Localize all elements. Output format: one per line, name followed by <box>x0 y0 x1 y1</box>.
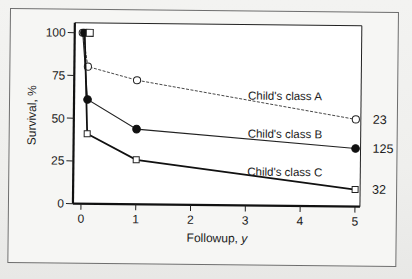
series-b-marker <box>352 145 360 153</box>
x-tick-1: 1 <box>132 212 139 226</box>
survival-chart: 100 75 50 25 0 0 1 2 3 4 5 <box>8 9 401 269</box>
series-b-marker <box>133 125 141 133</box>
series-a-marker <box>352 116 359 123</box>
y-tick-0: 0 <box>57 197 64 211</box>
series-b-marker <box>84 96 92 104</box>
x-axis-title: Followup, y <box>187 231 249 246</box>
scanned-page: 100 75 50 25 0 0 1 2 3 4 5 <box>0 0 412 279</box>
y-tick-50: 50 <box>51 111 65 125</box>
series-a-marker <box>133 77 140 84</box>
y-axis-title: Survival, % <box>25 85 40 145</box>
y-tick-25: 25 <box>51 153 65 167</box>
plot-area <box>73 23 362 207</box>
x-tick-2: 2 <box>187 213 194 227</box>
x-tick-5: 5 <box>351 215 358 229</box>
x-tick-4: 4 <box>297 214 304 228</box>
y-tick-75: 75 <box>52 68 66 82</box>
y-tick-100: 100 <box>46 25 66 39</box>
x-tick-0: 0 <box>77 212 84 226</box>
count-class-b: 125 <box>372 142 393 156</box>
count-class-c: 32 <box>372 183 386 197</box>
x-tick-3: 3 <box>242 213 249 227</box>
label-class-a: Child's class A <box>248 89 322 102</box>
series-c-marker <box>133 157 139 163</box>
x-tick-labels: 0 1 2 3 4 5 <box>77 212 358 229</box>
label-class-c: Child's class C <box>247 165 322 178</box>
label-class-b: Child's class B <box>248 127 323 140</box>
series-c-marker <box>84 131 90 137</box>
series-c-marker <box>352 186 358 192</box>
figure-frame: 100 75 50 25 0 0 1 2 3 4 5 <box>7 8 399 267</box>
y-tick-labels: 100 75 50 25 0 <box>44 25 66 210</box>
count-class-a: 23 <box>373 113 387 127</box>
series-c-marker <box>86 29 93 36</box>
